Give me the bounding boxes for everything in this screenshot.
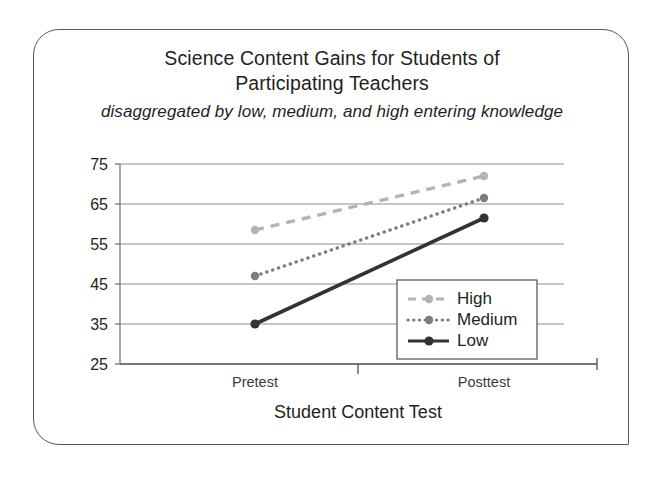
legend-label-medium: Medium	[457, 310, 517, 329]
y-tick-label-65: 65	[90, 196, 108, 213]
series-high-point-posttest	[480, 172, 488, 180]
series-high-point-pretest	[251, 226, 259, 234]
series-medium-point-pretest	[251, 272, 259, 280]
figure-root: Science Content Gains for Students of Pa…	[0, 0, 663, 478]
y-tick-marks	[115, 164, 120, 364]
series-medium-line	[255, 198, 484, 276]
y-tick-label-35: 35	[90, 316, 108, 333]
legend-swatch-high-marker	[425, 295, 433, 303]
legend-swatch-medium-marker	[425, 316, 433, 324]
legend-label-low: Low	[457, 331, 489, 350]
y-tick-label-55: 55	[90, 236, 108, 253]
y-tick-label-45: 45	[90, 276, 108, 293]
series-high-line	[255, 176, 484, 230]
x-axis-title: Student Content Test	[274, 402, 442, 422]
x-tick-label-posttest: Posttest	[458, 374, 510, 390]
y-tick-label-25: 25	[90, 356, 108, 373]
x-tick-label-pretest: Pretest	[232, 374, 278, 390]
series-low-point-posttest	[479, 213, 488, 222]
plot-area: 75 65 55 45 35 25	[34, 30, 630, 446]
chart-frame: Science Content Gains for Students of Pa…	[33, 29, 629, 445]
series-medium-point-posttest	[480, 194, 488, 202]
series-high	[251, 172, 488, 234]
series-low-point-pretest	[250, 319, 259, 328]
legend-label-high: High	[457, 289, 492, 308]
series-medium	[251, 194, 488, 280]
legend-swatch-low-marker	[424, 336, 433, 345]
chart-legend: High Medium Low	[397, 280, 537, 359]
line-chart-svg: 75 65 55 45 35 25	[34, 30, 630, 446]
y-tick-label-75: 75	[90, 156, 108, 173]
